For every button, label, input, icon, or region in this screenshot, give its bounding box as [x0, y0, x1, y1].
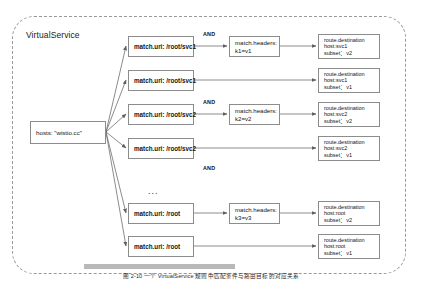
match-headers-kv: k3=v3	[230, 214, 279, 221]
ellipsis-indicator: ...	[148, 186, 159, 196]
route-destination-box: route.destination host:svc2 subset：v2	[318, 102, 380, 127]
match-uri-label: match.uri: /root/svc2	[129, 145, 193, 152]
match-uri-box: match.uri: /root/svc2	[128, 104, 194, 125]
selection-band	[84, 264, 235, 269]
match-uri-box: match.uri: /root	[128, 236, 194, 257]
route-destination-subset: subset：v2	[319, 50, 379, 57]
hosts-value: hosts: "wistio.cc"	[31, 129, 105, 136]
route-destination-subset: subset：v1	[319, 152, 379, 159]
route-destination-title: route.destination	[319, 237, 379, 244]
route-destination-host: host:root	[319, 243, 379, 250]
route-destination-subset: subset：v2	[319, 118, 379, 125]
and-label-3: AND	[203, 165, 215, 171]
match-uri-label: match.uri: /root	[129, 210, 193, 217]
diagram-canvas: VirtualService	[0, 0, 422, 287]
match-headers-label: match.headers:	[230, 39, 279, 46]
route-destination-host: host:svc2	[319, 145, 379, 152]
route-destination-host: host:svc1	[319, 43, 379, 50]
route-destination-box: route.destination host:root subset：v2	[318, 201, 380, 226]
route-destination-subset: subset：v1	[319, 84, 379, 91]
match-uri-label: match.uri: /root/svc1	[129, 77, 193, 84]
match-headers-label: match.headers:	[230, 206, 279, 213]
match-uri-box: match.uri: /root/svc1	[128, 36, 194, 57]
route-destination-title: route.destination	[319, 71, 379, 78]
match-headers-kv: k2=v2	[230, 115, 279, 122]
and-label-2: AND	[203, 99, 215, 105]
route-destination-subset: subset：v2	[319, 217, 379, 224]
hosts-box: hosts: "wistio.cc"	[30, 121, 106, 144]
route-destination-host: host:root	[319, 210, 379, 217]
match-headers-box: match.headers: k2=v2	[229, 104, 280, 125]
match-uri-label: match.uri: /root/svc2	[129, 111, 193, 118]
route-destination-host: host:svc1	[319, 77, 379, 84]
route-destination-title: route.destination	[319, 105, 379, 112]
route-destination-subset: subset：v1	[319, 250, 379, 257]
match-uri-box: match.uri: /root/svc1	[128, 70, 194, 91]
figure-caption: 图 2-10 一个 VirtualService 规则中匹配条件与路由目标的对应…	[0, 272, 422, 280]
match-headers-label: match.headers:	[230, 107, 279, 114]
match-headers-kv: k1=v1	[230, 47, 279, 54]
match-uri-label: match.uri: /root	[129, 243, 193, 250]
route-destination-box: route.destination host:svc1 subset：v2	[318, 34, 380, 59]
match-uri-box: match.uri: /root/svc2	[128, 138, 194, 159]
match-uri-label: match.uri: /root/svc1	[129, 43, 193, 50]
route-destination-box: route.destination host:svc1 subset：v1	[318, 68, 380, 93]
route-destination-box: route.destination host:svc2 subset：v1	[318, 136, 380, 161]
match-uri-box: match.uri: /root	[128, 203, 194, 224]
and-label-1: AND	[203, 31, 215, 37]
route-destination-box: route.destination host:root subset：v1	[318, 234, 380, 259]
match-headers-box: match.headers: k3=v3	[229, 203, 280, 224]
match-headers-box: match.headers: k1=v1	[229, 36, 280, 57]
route-destination-title: route.destination	[319, 37, 379, 44]
route-destination-title: route.destination	[319, 204, 379, 211]
route-destination-host: host:svc2	[319, 111, 379, 118]
route-destination-title: route.destination	[319, 139, 379, 146]
